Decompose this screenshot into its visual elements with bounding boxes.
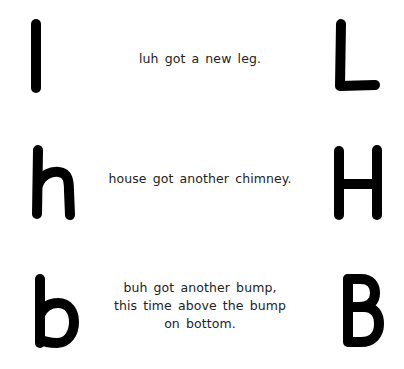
letter-l-lowercase-icon: [25, 14, 47, 98]
letter-b-lowercase-icon: [29, 269, 85, 353]
letter-l-uppercase-icon: [330, 14, 386, 98]
caption-l: luh got a new leg.: [100, 50, 300, 68]
caption-h: house got another chimney.: [100, 170, 300, 188]
letter-h-uppercase-icon: [329, 141, 389, 225]
caption-b: buh got another bump, this time above th…: [100, 279, 300, 333]
letter-h-lowercase-icon: [28, 141, 80, 225]
caption-line: luh got a new leg.: [100, 50, 300, 68]
letter-b-uppercase-icon: [337, 269, 391, 353]
caption-line: buh got another bump,: [100, 279, 300, 297]
caption-line: house got another chimney.: [100, 170, 300, 188]
letter-pairs-worksheet: luh got a new leg. house got another chi…: [0, 0, 404, 369]
caption-line: this time above the bump: [100, 297, 300, 315]
caption-line: on bottom.: [100, 315, 300, 333]
